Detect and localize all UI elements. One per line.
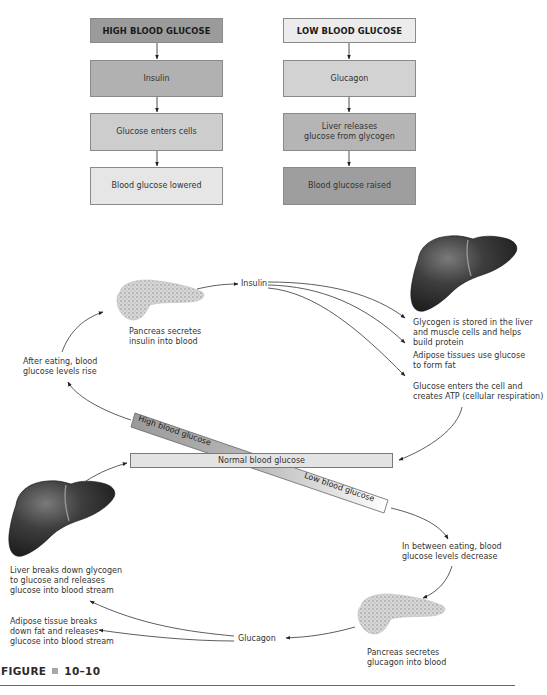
normal-blood-glucose-bar: Normal blood glucose bbox=[130, 453, 393, 468]
liver-icon-top bbox=[411, 236, 517, 311]
glucagon-label: Glucagon bbox=[238, 634, 276, 644]
figure-number: 10–10 bbox=[64, 665, 100, 677]
caption-rule bbox=[0, 685, 515, 686]
pancreas-insulin-caption: Pancreas secretes insulin into blood bbox=[129, 327, 201, 347]
after-eating-caption: After eating, blood glucose levels rise bbox=[23, 357, 97, 377]
between-eating-caption: In between eating, blood glucose levels … bbox=[402, 542, 502, 562]
insulin-effect-glycogen: Glycogen is stored in the liver and musc… bbox=[413, 318, 533, 348]
liver-icon-bottom bbox=[9, 481, 115, 556]
insulin-label: Insulin bbox=[241, 279, 267, 289]
figure-caption: FIGURE 10–10 bbox=[1, 665, 100, 677]
liver-glycogen-breakdown-caption: Liver breaks down glycogen to glucose an… bbox=[10, 566, 122, 596]
insulin-effect-atp: Glucose enters the cell and creates ATP … bbox=[413, 382, 543, 402]
flowchart-arrows bbox=[157, 43, 349, 166]
adipose-fat-breakdown-caption: Adipose tissue breaks down fat and relea… bbox=[10, 617, 114, 647]
pancreas-icon-top bbox=[117, 280, 204, 320]
pancreas-icon-bottom bbox=[358, 594, 445, 634]
insulin-effect-adipose: Adipose tissues use glucose to form fat bbox=[413, 351, 525, 371]
normal-blood-glucose-text: Normal blood glucose bbox=[218, 456, 305, 465]
pancreas-glucagon-caption: Pancreas secretes glucagon into blood bbox=[367, 648, 446, 668]
square-bullet-icon bbox=[52, 668, 58, 674]
figure-label-text: FIGURE bbox=[1, 665, 46, 677]
